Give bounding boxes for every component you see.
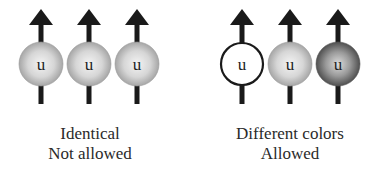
quark-up-2: u [67,9,111,104]
quark-label: u [286,55,295,74]
quark-label: u [37,55,46,74]
spin-arrow-up-icon [230,9,254,25]
spin-arrow-up-icon [326,9,350,25]
quark-up-1: u [19,9,63,104]
caption-line-2: Not allowed [0,144,180,164]
spin-arrow-up-icon [77,9,101,25]
caption-line-2: Allowed [200,144,375,164]
caption-different-colors: Different colors Allowed [200,124,375,164]
caption-line-1: Identical [0,124,180,144]
quark-label: u [133,55,142,74]
spin-arrow-up-icon [125,9,149,25]
caption-line-1: Different colors [200,124,375,144]
spin-arrow-up-icon [29,9,53,25]
quark-label: u [238,55,247,74]
group-different-colors: u u u [221,9,360,104]
spin-arrow-up-icon [278,9,302,25]
quark-up-white: u [221,9,263,104]
quark-label: u [85,55,94,74]
group-identical: u u u [19,9,159,104]
caption-identical: Identical Not allowed [0,124,180,164]
quark-label: u [334,55,343,74]
quark-up-3: u [115,9,159,104]
quark-up-dark: u [316,9,360,104]
quark-up-gray: u [268,9,312,104]
